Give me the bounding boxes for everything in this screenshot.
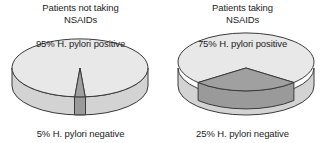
chart-panel-taking-nsaids: Patients taking NSAIDs 75% H. pylori pos… [162,0,323,143]
pie-right-label-negative: 25% H. pylori negative [162,128,323,139]
chart-title-left: Patients not taking NSAIDs [0,2,161,25]
chart-title-left-line2: NSAIDs [0,14,161,26]
pie-left-label-negative: 5% H. pylori negative [0,128,161,139]
chart-title-right-line2: NSAIDs [162,14,323,26]
pie-right-label-positive: 75% H. pylori positive [162,38,323,49]
pie-left-label-positive: 95% H. pylori positive [0,38,161,49]
chart-title-right: Patients taking NSAIDs [162,2,323,25]
chart-panel-not-taking-nsaids: Patients not taking NSAIDs 95% H. pylori… [0,0,161,143]
chart-title-right-line1: Patients taking [212,2,273,13]
chart-title-left-line1: Patients not taking [42,2,118,13]
pie-left-side-negative [75,97,86,115]
pie-chart-figure: Patients not taking NSAIDs 95% H. pylori… [0,0,323,143]
